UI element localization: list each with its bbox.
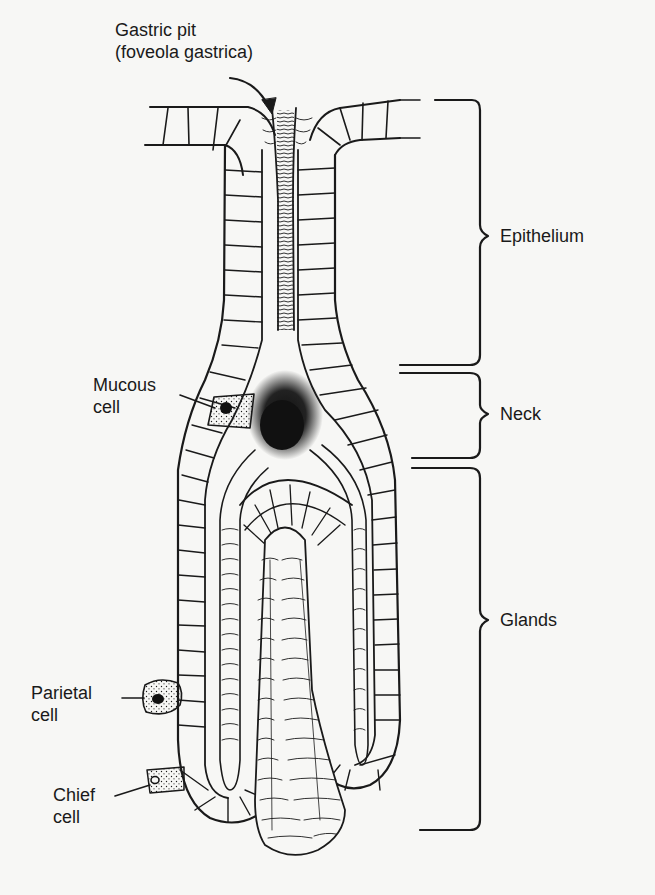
label-chief-cell: Chief: [53, 785, 95, 806]
label-mucous-cell-2: cell: [93, 397, 120, 418]
parietal-cell: [143, 680, 182, 714]
label-neck: Neck: [500, 404, 541, 425]
pit-lumen: [272, 108, 296, 330]
label-gastric-pit: Gastric pit: [115, 20, 196, 41]
region-brackets: [400, 100, 488, 830]
label-epithelium: Epithelium: [500, 226, 584, 247]
mucous-cell: [208, 394, 254, 428]
label-glands: Glands: [500, 610, 557, 631]
central-gland-tube: [255, 528, 345, 855]
label-gastric-pit-latin: (foveola gastrica): [115, 42, 253, 63]
gland-illustration: [0, 0, 655, 895]
label-parietal-cell: Parietal: [31, 683, 92, 704]
chief-cell: [147, 767, 184, 793]
chief-leader: [115, 785, 150, 796]
label-chief-cell-2: cell: [53, 807, 80, 828]
gastric-gland-diagram: Gastric pit (foveola gastrica) Mucous ce…: [0, 0, 655, 895]
label-parietal-cell-2: cell: [31, 705, 58, 726]
label-mucous-cell: Mucous: [93, 375, 156, 396]
leader-lines: [115, 395, 215, 796]
